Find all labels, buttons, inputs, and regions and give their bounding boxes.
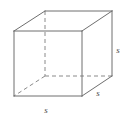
label-side-right: s [116, 46, 120, 55]
cube-diagram [0, 0, 133, 120]
cube-front-face [14, 31, 82, 96]
label-side-depth: s [96, 89, 100, 98]
cube-figure: s s s [0, 0, 133, 120]
label-side-bottom: s [44, 106, 48, 115]
